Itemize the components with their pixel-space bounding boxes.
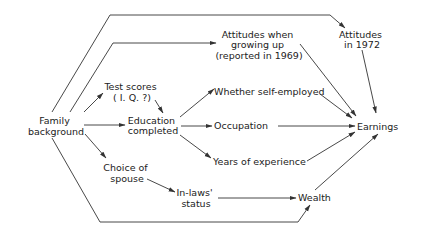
node-label-line: Test scores <box>103 81 156 92</box>
node-test-scores: Test scores ( I. Q. ?) <box>103 81 159 103</box>
edge-family-to-test-scores <box>84 93 103 112</box>
edge-family-to-spouse <box>85 134 106 158</box>
node-education-completed: Education completed <box>128 115 178 136</box>
node-label-line: ( I. Q. ?) <box>113 92 151 103</box>
edge-experience-to-earnings <box>307 132 355 161</box>
node-whether-self-employed: Whether self-employed <box>214 86 325 97</box>
node-attitudes-growing-up: Attitudes when growing up (reported in 1… <box>215 29 302 61</box>
node-label-line: spouse <box>110 173 144 184</box>
node-in-laws-status: In-laws' status <box>176 187 215 209</box>
node-label-line: completed <box>128 125 178 136</box>
node-label-line: in 1972 <box>344 39 380 50</box>
node-earnings: Earnings <box>357 121 398 132</box>
node-wealth: Wealth <box>298 192 331 203</box>
node-family-background: Family background <box>28 115 84 137</box>
path-diagram: Family background Test scores ( I. Q. ?)… <box>0 0 422 233</box>
node-occupation: Occupation <box>214 120 268 131</box>
edge-test-scores-to-education <box>155 100 163 113</box>
edge-education-to-experience <box>180 135 211 158</box>
node-label-line: background <box>28 126 84 137</box>
node-label-line: status <box>181 198 210 209</box>
node-label-line: (reported in 1969) <box>215 50 302 61</box>
node-attitudes-1972: Attitudes in 1972 <box>339 29 385 50</box>
node-label-line: Choice of <box>103 162 148 173</box>
edge-attitudes-1972-to-earnings <box>362 50 376 113</box>
edge-family-to-attitudes-1972 <box>52 15 345 112</box>
edge-education-to-self-employed <box>180 89 214 117</box>
node-label-line: In-laws' <box>176 187 212 198</box>
node-label-line: growing up <box>231 39 284 50</box>
node-years-of-experience: Years of experience <box>212 156 306 167</box>
nodes: Family background Test scores ( I. Q. ?)… <box>28 29 398 209</box>
node-label-line: Family <box>39 115 70 126</box>
edge-spouse-to-inlaws <box>147 179 175 192</box>
edge-family-to-wealth <box>52 138 310 222</box>
edge-wealth-to-earnings <box>315 134 378 190</box>
node-choice-of-spouse: Choice of spouse <box>103 162 150 184</box>
edge-self-employed-to-earnings <box>320 94 352 118</box>
edge-attitudes-growing-to-earnings <box>300 44 356 116</box>
